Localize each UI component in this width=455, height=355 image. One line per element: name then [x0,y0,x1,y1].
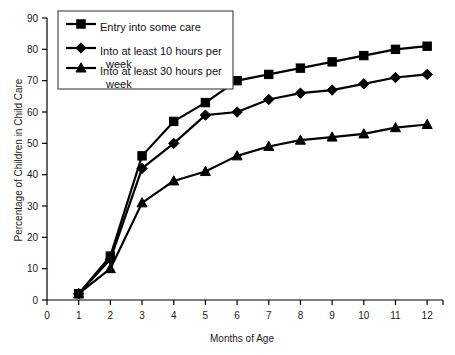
x-axis-tick-label: 2 [108,310,114,321]
data-point-marker [264,94,274,104]
y-axis-tick-label: 20 [27,232,39,243]
chart-legend: Entry into some careInto at least 10 hou… [58,11,233,90]
data-point-marker [233,76,241,84]
legend-label: Into at least 30 hours per [100,65,222,77]
y-axis-tick-label: 10 [27,263,39,274]
x-axis-tick-label: 11 [390,310,401,321]
data-point-marker [295,88,305,98]
x-axis-tick-label: 7 [266,310,272,321]
y-axis-tick-label: 0 [32,295,38,306]
data-point-marker [390,72,400,82]
series-line [79,74,427,293]
data-point-marker [170,117,178,125]
data-point-marker [327,85,337,95]
x-axis-tick-label: 10 [358,310,370,321]
data-point-marker [77,20,85,28]
series-line [79,125,427,294]
x-axis-tick-label: 1 [76,310,82,321]
y-axis-tick-label: 60 [27,107,39,118]
x-axis-tick-label: 8 [298,310,304,321]
data-point-marker [265,70,273,78]
legend-label: Entry into some care [100,21,201,33]
y-axis-tick-label: 70 [27,75,39,86]
y-axis-tick-label: 80 [27,44,39,55]
data-point-marker [137,198,147,207]
x-axis-tick-label: 6 [234,310,240,321]
y-axis-tick-label: 50 [27,138,39,149]
data-point-marker [391,45,399,53]
legend-label-line2: week [105,78,132,90]
x-axis-tick-label: 5 [203,310,209,321]
x-axis-tick-label: 0 [44,310,50,321]
data-point-marker [422,69,432,79]
series-2 [73,69,432,299]
x-axis-tick-label: 12 [422,310,434,321]
y-axis-tick-label: 30 [27,201,39,212]
x-axis-title: Months of Age [210,333,274,344]
data-point-marker [105,263,115,272]
data-point-marker [232,107,242,117]
data-point-marker [423,42,431,50]
x-axis-tick-label: 4 [171,310,177,321]
data-point-marker [138,152,146,160]
data-point-marker [201,98,209,106]
x-axis-ticks: 0123456789101112 [44,300,443,321]
legend-label: Into at least 10 hours per [100,45,222,57]
data-point-marker [296,64,304,72]
data-point-marker [360,51,368,59]
y-axis-tick-label: 90 [27,13,39,24]
x-axis-tick-label: 9 [329,310,335,321]
chart-container: 0102030405060708090 0123456789101112 Ent… [0,0,455,355]
y-axis-ticks: 0102030405060708090 [27,13,47,306]
data-point-marker [359,79,369,89]
line-chart: 0102030405060708090 0123456789101112 Ent… [0,0,455,355]
y-axis-tick-label: 40 [27,169,39,180]
y-axis-title: Percentage of Children in Child Care [13,78,24,241]
x-axis-tick-label: 3 [139,310,145,321]
data-point-marker [328,58,336,66]
